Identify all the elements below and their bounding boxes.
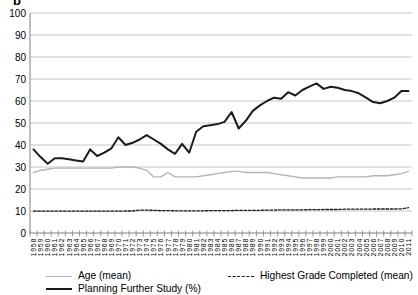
svg-text:1977: 1977 <box>165 238 172 256</box>
svg-text:1999: 1999 <box>320 238 327 256</box>
legend-item-planning-further-study: Planning Further Study (%) <box>46 283 201 295</box>
svg-text:1983: 1983 <box>207 238 214 256</box>
legend-item-highest-grade-completed: Highest Grade Completed (mean) <box>228 270 413 282</box>
svg-text:10: 10 <box>15 206 27 217</box>
svg-text:1964: 1964 <box>73 238 80 256</box>
svg-text:1963: 1963 <box>66 238 73 256</box>
svg-text:1986: 1986 <box>228 238 235 256</box>
svg-text:0: 0 <box>20 228 26 239</box>
svg-text:1967: 1967 <box>94 238 101 256</box>
svg-text:1995: 1995 <box>292 238 299 256</box>
svg-text:40: 40 <box>15 140 27 151</box>
svg-text:2001: 2001 <box>334 238 341 256</box>
svg-text:1991: 1991 <box>264 238 271 256</box>
svg-text:2010: 2010 <box>398 238 405 256</box>
highest-grade-line-sample-icon <box>228 276 254 277</box>
chart-canvas: 0102030405060708090100195819591960196119… <box>0 0 418 262</box>
legend-item-age-mean: Age (mean) <box>46 270 131 282</box>
svg-text:1971: 1971 <box>122 238 129 256</box>
svg-text:1992: 1992 <box>271 238 278 256</box>
svg-text:2004: 2004 <box>356 238 363 256</box>
age-mean-line-sample-icon <box>46 276 72 277</box>
svg-text:30: 30 <box>15 162 27 173</box>
svg-text:2007: 2007 <box>377 238 384 256</box>
svg-text:2003: 2003 <box>348 238 355 256</box>
svg-text:1965: 1965 <box>80 238 87 256</box>
svg-text:1984: 1984 <box>214 238 221 256</box>
svg-text:1959: 1959 <box>37 238 44 256</box>
svg-text:20: 20 <box>15 184 27 195</box>
x-axis-labels: 1958195919601961196219631964196519661967… <box>30 238 412 256</box>
svg-text:2011: 2011 <box>405 238 412 256</box>
svg-text:1975: 1975 <box>150 238 157 256</box>
svg-text:1980: 1980 <box>186 238 193 256</box>
svg-text:2002: 2002 <box>341 238 348 256</box>
svg-text:1969: 1969 <box>108 238 115 256</box>
svg-text:50: 50 <box>15 118 27 129</box>
gridlines <box>30 13 412 211</box>
legend-label-highest-grade-completed: Highest Grade Completed (mean) <box>260 270 413 282</box>
svg-text:1979: 1979 <box>179 238 186 256</box>
svg-text:2000: 2000 <box>327 238 334 256</box>
series-planning-further-study-line <box>34 83 409 163</box>
legend-label-age-mean: Age (mean) <box>78 270 131 282</box>
svg-text:100: 100 <box>9 8 26 19</box>
svg-text:1968: 1968 <box>101 238 108 256</box>
svg-text:1970: 1970 <box>115 238 122 256</box>
svg-text:1987: 1987 <box>235 238 242 256</box>
svg-text:1978: 1978 <box>172 238 179 256</box>
svg-text:1972: 1972 <box>129 238 136 256</box>
svg-text:1974: 1974 <box>143 238 150 256</box>
svg-text:1973: 1973 <box>136 238 143 256</box>
svg-text:1994: 1994 <box>285 238 292 256</box>
svg-text:1997: 1997 <box>306 238 313 256</box>
svg-text:80: 80 <box>15 52 27 63</box>
svg-text:1958: 1958 <box>30 238 37 256</box>
series-age-mean-line <box>34 167 409 178</box>
svg-text:1998: 1998 <box>313 238 320 256</box>
planning-further-study-line-sample-icon <box>46 288 72 290</box>
svg-text:1996: 1996 <box>299 238 306 256</box>
svg-text:1989: 1989 <box>249 238 256 256</box>
svg-text:1985: 1985 <box>221 238 228 256</box>
svg-text:1993: 1993 <box>278 238 285 256</box>
svg-text:1990: 1990 <box>257 238 264 256</box>
svg-text:1982: 1982 <box>200 238 207 256</box>
svg-text:1961: 1961 <box>51 238 58 256</box>
svg-text:2008: 2008 <box>384 238 391 256</box>
svg-text:2009: 2009 <box>391 238 398 256</box>
svg-text:1976: 1976 <box>157 238 164 256</box>
svg-text:1966: 1966 <box>87 238 94 256</box>
svg-text:1960: 1960 <box>44 238 51 256</box>
y-axis-labels: 0102030405060708090100 <box>9 8 26 239</box>
svg-text:1988: 1988 <box>242 238 249 256</box>
svg-text:90: 90 <box>15 30 27 41</box>
svg-text:60: 60 <box>15 96 27 107</box>
legend-label-planning-further-study: Planning Further Study (%) <box>78 283 201 295</box>
chart-figure: b 01020304050607080901001958195919601961… <box>0 0 418 295</box>
svg-text:1981: 1981 <box>193 238 200 256</box>
svg-text:2006: 2006 <box>370 238 377 256</box>
svg-text:2005: 2005 <box>363 238 370 256</box>
svg-text:1962: 1962 <box>58 238 65 256</box>
svg-text:70: 70 <box>15 74 27 85</box>
